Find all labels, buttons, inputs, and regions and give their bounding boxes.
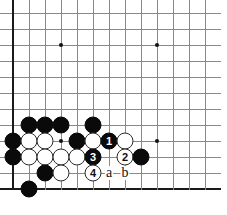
grid-line-horizontal <box>0 13 221 14</box>
numbered-stone-white-2: 2 <box>117 149 134 166</box>
star-point <box>59 43 63 47</box>
stone-move-number: 2 <box>122 152 128 163</box>
stone-black <box>133 149 150 166</box>
grid-line-vertical <box>173 0 174 190</box>
stone-black <box>21 181 38 198</box>
grid-line-horizontal <box>0 93 221 94</box>
grid-line-horizontal <box>0 77 221 78</box>
stone-black <box>21 117 38 134</box>
stone-move-number: 1 <box>106 136 112 147</box>
stone-black <box>5 149 22 166</box>
stone-move-number: 4 <box>90 168 96 179</box>
stone-white <box>21 133 38 150</box>
letter-marker-a: a <box>105 166 113 180</box>
stone-white <box>85 133 102 150</box>
grid-line-vertical <box>157 0 158 190</box>
star-point <box>59 139 63 143</box>
grid-line-vertical <box>189 0 190 190</box>
grid-line-vertical <box>205 0 206 190</box>
stone-white <box>37 133 54 150</box>
stone-white <box>117 133 134 150</box>
letter-marker-b: b <box>121 166 130 180</box>
go-board-diagram: 1324 ab <box>0 0 227 215</box>
stone-move-number: 3 <box>90 152 96 163</box>
stone-white <box>53 149 70 166</box>
stone-white <box>53 165 70 182</box>
stone-white <box>37 149 54 166</box>
grid-line-horizontal <box>0 45 221 46</box>
star-point <box>155 43 159 47</box>
stone-white <box>69 149 86 166</box>
grid-line-horizontal <box>0 29 221 30</box>
stone-black <box>85 117 102 134</box>
grid-line-vertical <box>109 0 110 190</box>
stone-black <box>37 165 54 182</box>
star-point <box>155 139 159 143</box>
stone-black <box>5 133 22 150</box>
stone-black <box>53 117 70 134</box>
grid-line-horizontal <box>0 61 221 62</box>
numbered-stone-black-1: 1 <box>101 133 118 150</box>
stone-white <box>21 149 38 166</box>
numbered-stone-white-4: 4 <box>85 165 102 182</box>
grid-line-horizontal <box>0 109 221 110</box>
numbered-stone-black-3: 3 <box>85 149 102 166</box>
stone-black <box>69 133 86 150</box>
stone-black <box>37 117 54 134</box>
